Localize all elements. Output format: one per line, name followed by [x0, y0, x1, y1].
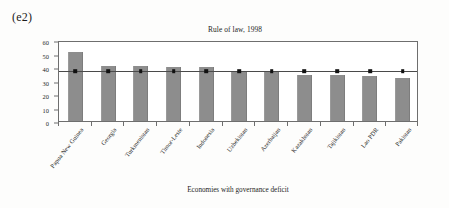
bar: [264, 71, 279, 121]
line-marker: [172, 69, 176, 73]
line-marker: [204, 69, 208, 73]
line-marker: [303, 69, 307, 73]
x-tick-label: Uzbekistan: [225, 126, 248, 153]
x-tick-label: Indonesia: [195, 126, 216, 150]
bar: [231, 71, 246, 121]
x-tick-label: Lao PDR: [359, 126, 379, 149]
x-tick-label: Georgia: [99, 126, 117, 146]
panel-label: (e2): [12, 10, 32, 25]
x-tick-label: Pakistan: [393, 126, 412, 147]
bar: [133, 66, 148, 121]
y-axis-title-wrapper: Gini coefficient: [22, 41, 23, 123]
y-tick-label: 10: [43, 106, 49, 113]
line-marker: [237, 69, 241, 73]
x-tick-label: Timor-Leste: [158, 126, 183, 155]
bar: [362, 76, 377, 121]
line-marker: [74, 69, 78, 73]
bar: [330, 75, 345, 121]
y-tick-label: 50: [43, 52, 49, 59]
x-tick-label: Turkmenistan: [123, 126, 150, 158]
plot-frame: [58, 41, 418, 122]
y-tick-label: 30: [43, 79, 49, 86]
line-marker: [335, 69, 339, 73]
line-marker: [401, 69, 405, 73]
y-tick-label: 20: [43, 93, 49, 100]
y-tick-label: 60: [43, 39, 49, 46]
plot-area: [59, 42, 417, 121]
y-axis: 0102030405060: [0, 41, 58, 123]
x-tick-label: Papua New Guinea: [49, 126, 85, 169]
x-tick-label: Azerbaijan: [258, 126, 281, 152]
y-tick-label: 0: [46, 120, 49, 127]
line-marker: [368, 69, 372, 73]
x-axis-title: Economies with governance deficit: [58, 186, 418, 194]
line-marker: [106, 69, 110, 73]
y-tick-label: 40: [43, 66, 49, 73]
chart-title: Rule of law, 1998: [52, 25, 418, 34]
bar: [68, 52, 83, 121]
line-marker: [270, 69, 274, 73]
figure-e2: (e2) Rule of law, 1998 0102030405060 Gin…: [0, 0, 449, 208]
line-marker: [139, 69, 143, 73]
x-tick-label: Kazakhstan: [290, 126, 314, 154]
x-tick-label: Tajikistan: [326, 126, 347, 150]
bar: [166, 67, 181, 121]
bar: [395, 78, 410, 121]
bar: [297, 75, 312, 121]
x-axis-labels: Papua New GuineaGeorgiaTurkmenistanTimor…: [58, 126, 418, 182]
bar: [101, 66, 116, 121]
bar: [199, 67, 214, 121]
